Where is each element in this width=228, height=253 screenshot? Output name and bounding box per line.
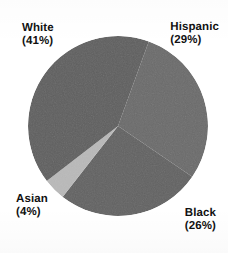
pie-label-white: White (41%): [22, 22, 54, 48]
pie-label-hispanic-name: Hispanic: [170, 21, 219, 34]
pie-label-asian: Asian (4%): [16, 193, 48, 219]
pie-label-asian-name: Asian: [16, 193, 48, 206]
pie-label-black-name: Black: [185, 207, 216, 220]
pie-chart-figure: White (41%) Hispanic (29%) Asian (4%) Bl…: [0, 0, 228, 253]
pie-label-black: Black (26%): [185, 207, 216, 233]
pie-label-hispanic-percent: (29%): [170, 34, 219, 47]
pie-label-white-name: White: [22, 22, 54, 35]
pie-label-asian-percent: (4%): [16, 206, 48, 219]
pie-label-white-percent: (41%): [22, 35, 54, 48]
pie-label-black-percent: (26%): [185, 220, 216, 233]
pie-label-hispanic: Hispanic (29%): [170, 21, 219, 47]
